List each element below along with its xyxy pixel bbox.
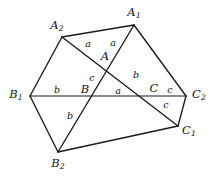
side-label-b-below-left: b [67, 111, 73, 121]
vertex-label-subscript: 1 [191, 129, 196, 138]
side-label-a-upper-left: a [85, 39, 91, 49]
vertex-label-text: B [81, 82, 89, 96]
vertex-label-text: C [182, 123, 191, 137]
vertex-label-a: A [101, 51, 109, 63]
vertex-label-subscript: 2 [59, 24, 64, 33]
vertex-label-b1: B1 [9, 89, 22, 101]
vertex-label-c2: C2 [192, 89, 206, 101]
edge-a1-b2 [58, 25, 134, 152]
vertex-label-text: C [150, 81, 159, 95]
edge-b1-b2 [30, 96, 58, 152]
side-label-c-below-right: c [163, 100, 168, 110]
side-label-b-base-left: b [54, 85, 60, 95]
vertex-label-subscript: 1 [18, 93, 23, 102]
side-label-b-mid-right: b [133, 70, 139, 80]
vertex-label-subscript: 2 [60, 162, 65, 171]
edge-b2-c1 [58, 126, 178, 152]
vertex-label-text: C [192, 87, 201, 101]
vertex-label-subscript: 1 [136, 11, 141, 20]
edge-a1-c2 [134, 25, 186, 96]
vertex-label-text: A [101, 49, 109, 63]
edge-c1-c2 [178, 96, 186, 126]
geometry-canvas [0, 0, 216, 176]
vertex-label-b: B [81, 84, 89, 96]
side-label-a-upper-right: a [110, 38, 116, 48]
vertex-label-a1: A1 [127, 7, 140, 19]
edge-a2-a1 [62, 25, 134, 37]
edge-a2-c1 [62, 37, 178, 126]
vertex-label-c: C [150, 83, 159, 95]
side-label-c-base-right: c [167, 85, 172, 95]
side-label-c-mid-left: c [89, 73, 94, 83]
vertex-label-b2: B2 [51, 158, 64, 170]
vertex-label-subscript: 2 [201, 93, 206, 102]
geometry-figure: A1A2B1B2C1C2ABCaacbbaccb [0, 0, 216, 176]
vertex-label-c1: C1 [182, 125, 196, 137]
vertex-label-a2: A2 [50, 20, 63, 32]
side-label-a-base-mid: a [115, 86, 121, 96]
